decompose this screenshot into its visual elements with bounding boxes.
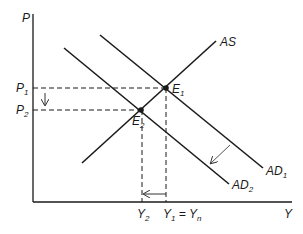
ad1-curve [100, 35, 263, 168]
e1-label: E1 [172, 82, 184, 98]
e2-label: E2 [132, 114, 145, 130]
p1-label: P1 [16, 81, 28, 97]
ad-shift-arrow [211, 145, 230, 163]
x-axis-label: Y [284, 207, 293, 221]
as-curve [82, 41, 216, 163]
e2-point [138, 107, 144, 113]
y2-label: Y2 [137, 207, 150, 223]
ad1-label: AD1 [265, 164, 287, 180]
e1-point [163, 85, 169, 91]
ad2-label: AD2 [231, 178, 254, 194]
y-axis-label: P [22, 11, 30, 25]
y1-yn-label: Y1 = Yn [163, 207, 202, 223]
ad-as-diagram: P Y AS AD1 AD2 E1 E2 P1 P2 Y2 Y1 = Yn [0, 0, 303, 234]
ad2-curve [64, 48, 229, 184]
as-label: AS [219, 35, 236, 49]
p2-label: P2 [16, 103, 29, 119]
